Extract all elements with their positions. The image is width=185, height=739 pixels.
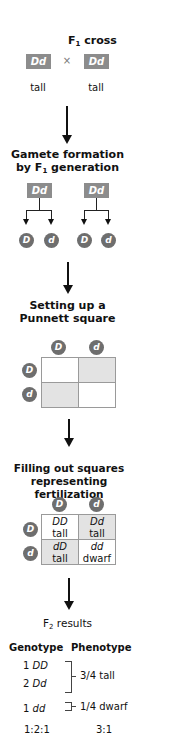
phenotype-dwarf: 1/4 dwarf	[80, 701, 128, 712]
f1-cross-title: F1 cross	[0, 34, 185, 51]
punnett-empty-cell	[78, 357, 116, 383]
down-arrow-icon	[63, 578, 75, 616]
punnett-setup-title: Setting up a Punnett square	[0, 299, 135, 325]
arrowhead-icon	[23, 219, 29, 225]
row-allele: D	[23, 522, 38, 537]
parent-genotype-right: Dd	[84, 54, 109, 69]
f2-results-title: F2 results	[0, 617, 135, 634]
down-arrow-icon	[62, 262, 74, 300]
phenotype-right: tall	[81, 82, 111, 93]
branch-line	[39, 198, 40, 210]
punnett-cell-dD: dD tall	[41, 539, 79, 565]
gamete-allele: d	[44, 233, 59, 248]
parent-genotype-left: Dd	[26, 54, 51, 69]
row-allele: D	[22, 363, 37, 378]
arrowhead-icon	[81, 219, 87, 225]
phenotype-ratio: 3:1	[96, 724, 112, 735]
down-arrow-icon	[61, 106, 73, 144]
row-allele: d	[23, 546, 38, 561]
genotype-row-Dd: 2 Dd	[23, 678, 47, 689]
column-allele: D	[52, 497, 67, 512]
genotype-row-DD: 1 DD	[23, 660, 48, 671]
gamete-parent-left: Dd	[27, 183, 52, 198]
gamete-allele: D	[19, 233, 34, 248]
gamete-formation-title: Gamete formation by F1 generation	[0, 148, 135, 178]
phenotype-header: Phenotype	[71, 642, 131, 653]
punnett-cell-dd: dd dwarf	[78, 539, 116, 565]
column-allele: d	[89, 340, 104, 355]
punnett-cell-DD: DD tall	[41, 514, 79, 540]
down-arrow-icon	[63, 419, 75, 457]
bracket-tick	[72, 676, 76, 677]
branch-line	[26, 210, 52, 211]
column-allele: d	[89, 497, 104, 512]
punnett-cell-Dd: Dd tall	[78, 514, 116, 540]
column-allele: D	[51, 340, 66, 355]
phenotype-tall: 3/4 tall	[80, 670, 115, 681]
cross-symbol: ×	[60, 55, 74, 66]
branch-line	[96, 198, 97, 210]
branch-line	[84, 210, 109, 211]
fertilization-title: Filling out squares representing fertili…	[0, 462, 138, 501]
bracket-tall	[65, 661, 72, 693]
genotype-row-dd: 1 dd	[23, 703, 45, 714]
gamete-parent-right: Dd	[84, 183, 109, 198]
genotype-header: Genotype	[9, 642, 63, 653]
bracket-dwarf	[65, 702, 72, 711]
genotype-ratio: 1:2:1	[24, 724, 50, 735]
punnett-empty-cell	[78, 382, 116, 408]
punnett-empty-cell	[41, 382, 79, 408]
bracket-tick	[72, 706, 76, 707]
gamete-allele: D	[77, 233, 92, 248]
punnett-empty-cell	[41, 357, 79, 383]
arrowhead-icon	[48, 219, 54, 225]
phenotype-left: tall	[23, 82, 53, 93]
arrowhead-icon	[105, 219, 111, 225]
row-allele: d	[22, 387, 37, 402]
gamete-allele: d	[101, 233, 116, 248]
